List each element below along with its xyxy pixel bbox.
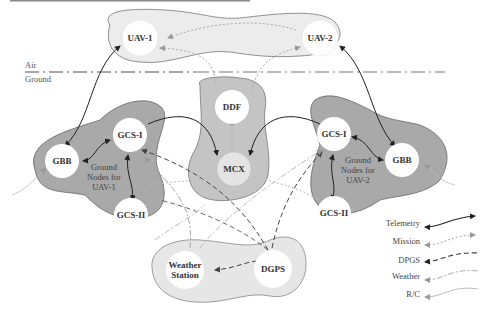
legend-line-weather	[425, 271, 478, 280]
legend-item-mission: Mission	[393, 235, 475, 246]
legend-item-rc: R/C	[406, 288, 478, 299]
svg-text:MCX: MCX	[223, 164, 245, 174]
node-gbb-left: GBB	[45, 144, 79, 178]
svg-text:Weather: Weather	[169, 260, 202, 270]
legend-item-dpgs: DPGS	[398, 253, 478, 265]
svg-text:Station: Station	[171, 270, 199, 280]
node-ddf: DDF	[215, 90, 249, 124]
svg-text:UAV-2: UAV-2	[346, 175, 370, 185]
weather-to-mcx	[155, 205, 205, 240]
svg-text:Nodes for: Nodes for	[87, 172, 121, 182]
svg-text:Ground: Ground	[345, 155, 372, 165]
svg-text:UAV-2: UAV-2	[307, 33, 333, 43]
svg-text:DGPS: DGPS	[261, 264, 285, 274]
node-weather-station: Weather Station	[166, 251, 204, 289]
svg-text:Mission: Mission	[393, 236, 421, 246]
node-gcs1-left: GCS-I	[113, 118, 147, 152]
node-gcs2-left: GCS-II	[114, 198, 148, 232]
svg-text:DDF: DDF	[223, 102, 242, 112]
legend-line-dpgs	[425, 253, 478, 262]
system-architecture-diagram: Air Ground UAV-1 UAV-2 DDF	[0, 0, 490, 320]
node-dgps: DGPS	[254, 250, 292, 288]
node-gcs2-right: GCS-II	[317, 196, 351, 230]
svg-text:Nodes for: Nodes for	[341, 165, 375, 175]
legend-item-telemetry: Telemetry	[386, 216, 475, 228]
svg-text:Ground: Ground	[91, 162, 118, 172]
svg-text:GCS-II: GCS-II	[117, 210, 146, 220]
ground-label: Ground	[25, 74, 52, 84]
svg-text:GBB: GBB	[392, 155, 411, 165]
legend-line-rc	[425, 288, 478, 297]
node-uav2: UAV-2	[302, 20, 338, 56]
svg-text:DPGS: DPGS	[398, 255, 420, 265]
svg-text:GCS-II: GCS-II	[320, 208, 349, 218]
node-gbb-right: GBB	[385, 143, 419, 177]
top-edge-bar	[10, 0, 250, 2]
node-gcs1-right: GCS-I	[317, 117, 351, 151]
svg-text:Weather: Weather	[392, 271, 420, 281]
legend-line-telemetry	[425, 216, 475, 227]
air-label: Air	[25, 60, 37, 70]
legend-item-weather: Weather	[392, 271, 478, 281]
svg-text:UAV-1: UAV-1	[127, 33, 153, 43]
svg-text:UAV-1: UAV-1	[92, 182, 116, 192]
svg-text:GCS-I: GCS-I	[321, 129, 347, 139]
node-mcx: MCX	[217, 152, 251, 186]
svg-text:GCS-I: GCS-I	[117, 130, 143, 140]
svg-text:Telemetry: Telemetry	[386, 218, 421, 228]
node-uav1: UAV-1	[122, 20, 158, 56]
legend: Telemetry Mission DPGS Weather R/C	[386, 216, 478, 299]
svg-text:R/C: R/C	[406, 289, 420, 299]
svg-text:GBB: GBB	[52, 156, 71, 166]
legend-line-mission	[425, 235, 475, 245]
